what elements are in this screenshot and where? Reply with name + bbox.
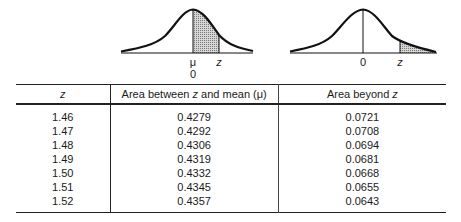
cell-beyond: 0.0721 xyxy=(278,104,446,124)
right-z-label: z xyxy=(397,56,403,68)
cell-between: 0.4292 xyxy=(110,124,278,138)
z-table-container: z Area between z and mean (μ) Area beyon… xyxy=(16,84,446,213)
cell-z: 1.51 xyxy=(16,180,110,194)
cell-z: 1.48 xyxy=(16,138,110,152)
cell-between: 0.4319 xyxy=(110,152,278,166)
cell-z: 1.46 xyxy=(16,104,110,124)
table-row: 1.47 0.4292 0.0708 xyxy=(16,124,446,138)
right-normal-curve xyxy=(290,10,437,54)
table-row: 1.49 0.4319 0.0681 xyxy=(16,152,446,166)
cell-between: 0.4306 xyxy=(110,138,278,152)
cell-between: 0.4357 xyxy=(110,194,278,213)
left-mu-label: μ xyxy=(190,56,196,68)
cell-beyond: 0.0694 xyxy=(278,138,446,152)
cell-z: 1.52 xyxy=(16,194,110,213)
left-zero-label: 0 xyxy=(190,68,196,80)
table-row: 1.52 0.4357 0.0643 xyxy=(16,194,446,213)
cell-z: 1.50 xyxy=(16,166,110,180)
table-row: 1.48 0.4306 0.0694 xyxy=(16,138,446,152)
header-area-between: Area between z and mean (μ) xyxy=(110,85,278,104)
cell-between: 0.4345 xyxy=(110,180,278,194)
cell-between: 0.4332 xyxy=(110,166,278,180)
header-between-suffix: and mean (μ) xyxy=(198,88,267,100)
header-beyond-prefix: Area beyond xyxy=(327,88,392,100)
cell-between: 0.4279 xyxy=(110,104,278,124)
right-zero-label: 0 xyxy=(360,56,366,68)
table-header-row: z Area between z and mean (μ) Area beyon… xyxy=(16,85,446,104)
cell-beyond: 0.0655 xyxy=(278,180,446,194)
header-area-beyond: Area beyond z xyxy=(278,85,446,104)
left-bell-curve xyxy=(121,10,253,52)
table-row: 1.46 0.4279 0.0721 xyxy=(16,104,446,124)
left-z-label: z xyxy=(216,56,222,68)
cell-z: 1.49 xyxy=(16,152,110,166)
cell-beyond: 0.0681 xyxy=(278,152,446,166)
header-z: z xyxy=(16,85,110,104)
table-row: 1.50 0.4332 0.0668 xyxy=(16,166,446,180)
normal-curve-figures: μ 0 z 0 z xyxy=(0,0,461,84)
normal-curves-svg xyxy=(0,0,461,84)
normal-distribution-table: z Area between z and mean (μ) Area beyon… xyxy=(16,84,446,213)
cell-beyond: 0.0643 xyxy=(278,194,446,213)
table-row: 1.51 0.4345 0.0655 xyxy=(16,180,446,194)
header-between-prefix: Area between xyxy=(122,88,193,100)
cell-z: 1.47 xyxy=(16,124,110,138)
header-beyond-z: z xyxy=(392,88,398,100)
left-normal-curve xyxy=(121,10,253,54)
cell-beyond: 0.0708 xyxy=(278,124,446,138)
cell-beyond: 0.0668 xyxy=(278,166,446,180)
